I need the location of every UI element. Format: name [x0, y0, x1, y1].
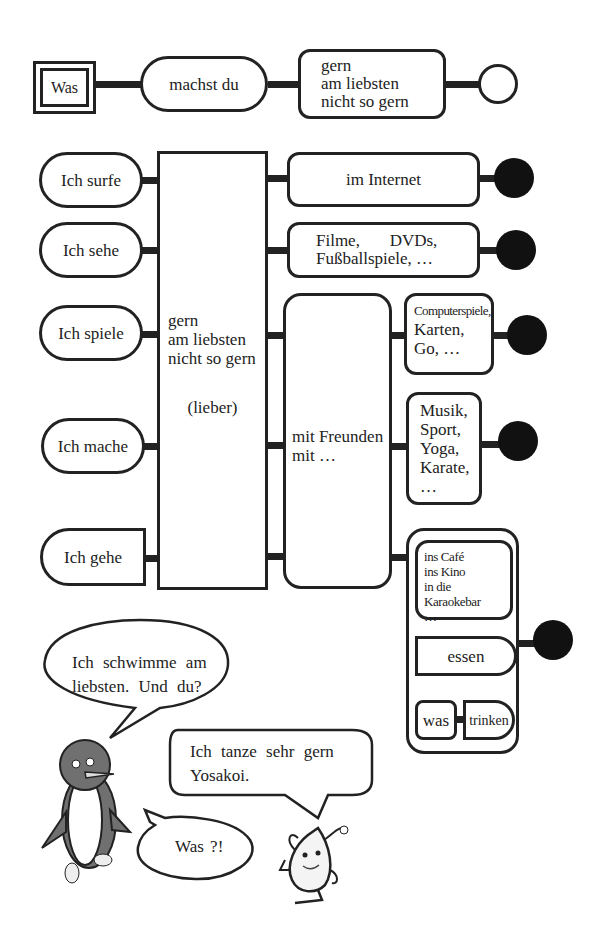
penguin-icon: [42, 740, 130, 883]
center-adverb-list: gern am liebsten nicht so gern: [168, 311, 256, 368]
object-label: Karten, Go, …: [414, 320, 465, 358]
object-places: ins Café ins Kino in die Karaokebar …: [415, 540, 513, 620]
with-friends-label: mit Freunden mit …: [292, 427, 383, 465]
object-label: ins Café ins Kino in die Karaokebar …: [424, 549, 510, 624]
end-dot: [498, 421, 538, 461]
verb-ich-sehe: Ich sehe: [39, 222, 143, 278]
penguin-reply: Was ?!: [175, 835, 223, 859]
end-dot: [494, 158, 534, 198]
object-was: was: [415, 700, 457, 740]
object-games: Computerspiele, Karten, Go, …: [404, 293, 494, 375]
comparative-label: (lieber): [160, 398, 265, 418]
with-friends-box: mit Freunden mit …: [283, 293, 392, 589]
object-media: Filme, DVDs, Fußballspiele, …: [287, 222, 480, 278]
verb-label: Ich gehe: [64, 548, 122, 567]
penguin-speech: Ich schwimme am liebsten. Und du?: [72, 651, 207, 699]
object-label: im Internet: [346, 170, 421, 189]
mascot-speech: Ich tanze sehr gern Yosakoi.: [190, 740, 334, 788]
verb-label: Ich surfe: [61, 171, 121, 190]
connector: [268, 81, 300, 88]
end-dot: [507, 315, 547, 355]
object-label-small: Computerspiele,: [414, 302, 491, 320]
was-label: Was: [51, 78, 78, 97]
object-trinken: trinken: [463, 700, 515, 740]
object-label: Filme, DVDs, Fußballspiele, …: [316, 232, 437, 268]
verb-ich-gehe: Ich gehe: [40, 528, 146, 586]
end-circle-empty: [478, 64, 518, 104]
connector: [267, 175, 289, 182]
adverb-box-header: gern am liebsten nicht so gern: [298, 49, 446, 119]
connector: [446, 81, 480, 88]
object-essen: essen: [415, 636, 517, 676]
end-dot: [533, 620, 573, 660]
verb-ich-spiele: Ich spiele: [39, 305, 143, 361]
mascot-icon: [280, 826, 348, 903]
connector: [267, 247, 289, 254]
connector: [96, 81, 142, 88]
object-label: essen: [448, 647, 485, 666]
places-group-box: ins Café ins Kino in die Karaokebar … es…: [406, 528, 519, 754]
object-activities: Musik, Sport, Yoga, Karate, …: [406, 392, 482, 505]
object-label: Musik, Sport, Yoga, Karate, …: [420, 401, 470, 496]
adverb-list: gern am liebsten nicht so gern: [321, 57, 409, 111]
verb-label: Ich mache: [58, 437, 128, 456]
verb-ich-surfe: Ich surfe: [39, 152, 143, 208]
machst-du-label: machst du: [169, 75, 238, 94]
was-box: Was: [33, 61, 96, 114]
connector: [493, 332, 508, 339]
object-label: trinken: [469, 711, 509, 730]
verb-label: Ich spiele: [58, 324, 124, 343]
object-label: was: [423, 711, 449, 730]
object-im-internet: im Internet: [287, 152, 480, 207]
machst-du-box: machst du: [140, 56, 268, 112]
verb-label: Ich sehe: [63, 241, 119, 260]
center-adverb-box: gern am liebsten nicht so gern (lieber): [157, 151, 268, 590]
verb-ich-mache: Ich mache: [41, 418, 145, 474]
end-dot: [496, 230, 536, 270]
